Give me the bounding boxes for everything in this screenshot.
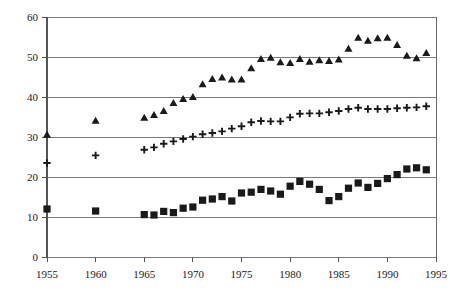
- series-markers-group: [43, 34, 430, 219]
- data-point-triangle: [413, 54, 421, 61]
- data-point-square: [277, 191, 284, 198]
- data-point-square: [141, 211, 148, 218]
- x-tick-label-1975: 1975: [231, 268, 254, 280]
- x-tick-label-1965: 1965: [133, 268, 156, 280]
- data-point-plus: [43, 159, 50, 166]
- data-point-triangle: [140, 114, 148, 121]
- data-point-triangle: [354, 34, 362, 41]
- data-point-plus: [316, 110, 323, 117]
- data-point-triangle: [208, 75, 216, 82]
- data-point-square: [92, 207, 99, 214]
- data-point-plus: [413, 104, 420, 111]
- data-point-square: [218, 193, 225, 200]
- data-point-triangle: [306, 58, 314, 65]
- x-tick-label-1985: 1985: [328, 268, 351, 280]
- data-point-square: [423, 166, 430, 173]
- data-point-triangle: [238, 75, 246, 82]
- data-point-plus: [160, 140, 167, 147]
- data-point-square: [267, 187, 274, 194]
- data-point-square: [287, 183, 294, 190]
- y-tick-label-10: 10: [27, 211, 39, 223]
- x-tick-label-1995: 1995: [425, 268, 448, 280]
- data-point-square: [199, 197, 206, 204]
- series-triangle-series: [43, 34, 430, 138]
- data-point-square: [150, 211, 157, 218]
- data-point-square: [355, 179, 362, 186]
- data-point-square: [160, 208, 167, 215]
- tick-marks-group: [42, 17, 436, 262]
- data-point-plus: [335, 107, 342, 114]
- data-point-square: [43, 205, 50, 212]
- data-point-plus: [423, 103, 430, 110]
- y-tick-label-40: 40: [27, 91, 39, 103]
- x-tick-label-1990: 1990: [376, 268, 399, 280]
- x-tick-label-1970: 1970: [182, 268, 205, 280]
- data-point-triangle: [257, 55, 265, 62]
- data-point-triangle: [403, 52, 411, 59]
- data-point-triangle: [160, 107, 168, 114]
- data-point-plus: [248, 119, 255, 126]
- data-point-triangle: [150, 111, 158, 118]
- data-point-triangle: [393, 41, 401, 48]
- data-point-plus: [364, 105, 371, 112]
- data-point-square: [170, 209, 177, 216]
- data-point-triangle: [296, 55, 304, 62]
- data-point-square: [374, 180, 381, 187]
- data-point-plus: [189, 133, 196, 140]
- y-tick-label-0: 0: [33, 251, 39, 263]
- data-point-square: [345, 185, 352, 192]
- data-point-plus: [393, 105, 400, 112]
- data-point-plus: [267, 118, 274, 125]
- y-tick-label-30: 30: [27, 131, 39, 143]
- data-point-triangle: [422, 49, 430, 56]
- data-point-square: [248, 189, 255, 196]
- data-point-square: [228, 197, 235, 204]
- data-point-triangle: [92, 117, 100, 124]
- x-axis-labels-group: 195519601965197019751980198519901995: [36, 268, 448, 280]
- data-point-square: [257, 186, 264, 193]
- data-point-square: [364, 184, 371, 191]
- data-point-square: [384, 175, 391, 182]
- data-point-plus: [228, 125, 235, 132]
- y-tick-label-20: 20: [27, 171, 39, 183]
- data-point-triangle: [383, 34, 391, 41]
- data-point-triangle: [247, 64, 255, 71]
- data-point-plus: [209, 129, 216, 136]
- data-point-plus: [355, 104, 362, 111]
- data-point-plus: [403, 104, 410, 111]
- data-point-square: [403, 165, 410, 172]
- data-point-square: [316, 186, 323, 193]
- data-point-plus: [141, 146, 148, 153]
- y-tick-label-50: 50: [27, 51, 39, 63]
- data-point-square: [296, 178, 303, 185]
- series-plus-series: [43, 103, 430, 167]
- series-square-series: [43, 164, 429, 218]
- data-point-square: [394, 171, 401, 178]
- data-point-triangle: [179, 95, 187, 102]
- data-point-plus: [296, 110, 303, 117]
- data-point-triangle: [218, 73, 226, 80]
- data-point-square: [209, 195, 216, 202]
- data-point-triangle: [169, 99, 177, 106]
- data-point-triangle: [228, 75, 236, 82]
- x-tick-label-1955: 1955: [36, 268, 59, 280]
- data-point-plus: [238, 123, 245, 130]
- data-point-triangle: [199, 80, 207, 87]
- chart-container: 0102030405060 19551960196519701975198019…: [0, 0, 450, 294]
- data-point-square: [325, 197, 332, 204]
- x-tick-label-1960: 1960: [85, 268, 108, 280]
- data-point-plus: [277, 118, 284, 125]
- data-point-plus: [179, 135, 186, 142]
- data-point-square: [238, 189, 245, 196]
- data-point-triangle: [276, 58, 284, 65]
- y-axis-labels-group: 0102030405060: [27, 11, 39, 263]
- data-point-triangle: [344, 45, 352, 52]
- data-point-triangle: [43, 131, 51, 138]
- data-point-plus: [92, 152, 99, 159]
- data-point-square: [306, 181, 313, 188]
- data-point-square: [189, 203, 196, 210]
- data-point-plus: [384, 105, 391, 112]
- data-point-plus: [374, 105, 381, 112]
- data-point-plus: [325, 109, 332, 116]
- data-point-plus: [345, 105, 352, 112]
